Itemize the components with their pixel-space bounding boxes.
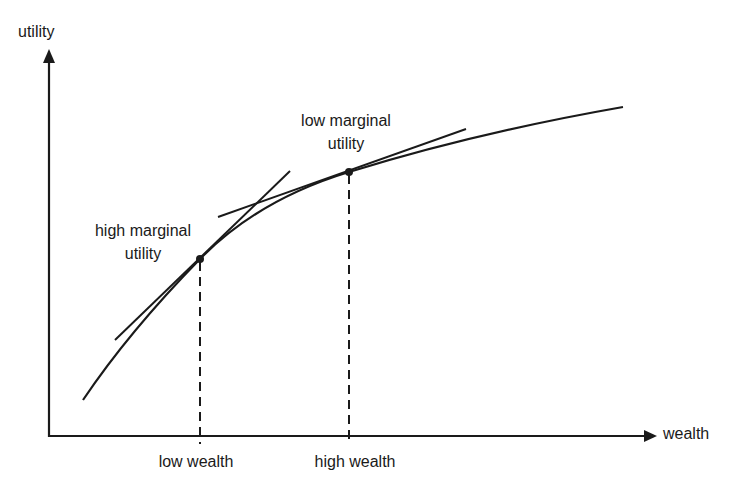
diagram-canvas [0,0,751,496]
x-axis-arrow-icon [644,430,657,442]
annotation-high-marginal-utility-line2: utility [125,244,161,264]
annotation-low-marginal-utility-line1: low marginal [301,111,391,131]
x-axis-label: wealth [663,424,709,444]
annotation-low-marginal-utility-line2: utility [328,134,364,154]
x-tick-low-wealth: low wealth [159,452,234,472]
y-axis-arrow-icon [43,49,55,63]
x-tick-high-wealth: high wealth [315,452,396,472]
point-high-wealth [345,168,353,176]
annotation-high-marginal-utility-line1: high marginal [95,221,191,241]
y-axis-label: utility [18,22,54,42]
point-low-wealth [196,255,204,263]
